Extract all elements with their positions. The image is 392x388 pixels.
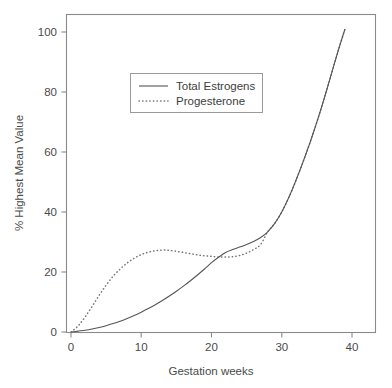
x-tick-label: 20 bbox=[205, 341, 218, 353]
x-tick-label: 10 bbox=[135, 341, 148, 353]
y-tick-label: 20 bbox=[44, 266, 57, 278]
y-tick-label: 0 bbox=[51, 326, 57, 338]
y-tick-label: 100 bbox=[38, 26, 57, 38]
legend-label-total-estrogens: Total Estrogens bbox=[176, 80, 256, 92]
chart-background bbox=[0, 0, 392, 388]
y-tick-label: 60 bbox=[44, 146, 57, 158]
legend-label-progesterone: Progesterone bbox=[176, 95, 245, 107]
x-tick-label: 30 bbox=[275, 341, 288, 353]
x-tick-label: 0 bbox=[68, 341, 74, 353]
x-tick-label: 40 bbox=[346, 341, 359, 353]
y-tick-label: 80 bbox=[44, 86, 57, 98]
y-tick-label: 40 bbox=[44, 206, 57, 218]
line-chart: 100 80 60 40 20 0 0 10 20 30 40 Gestatio… bbox=[0, 0, 392, 388]
y-axis-title: % Highest Mean Value bbox=[13, 115, 25, 231]
x-axis-title: Gestation weeks bbox=[168, 365, 253, 377]
